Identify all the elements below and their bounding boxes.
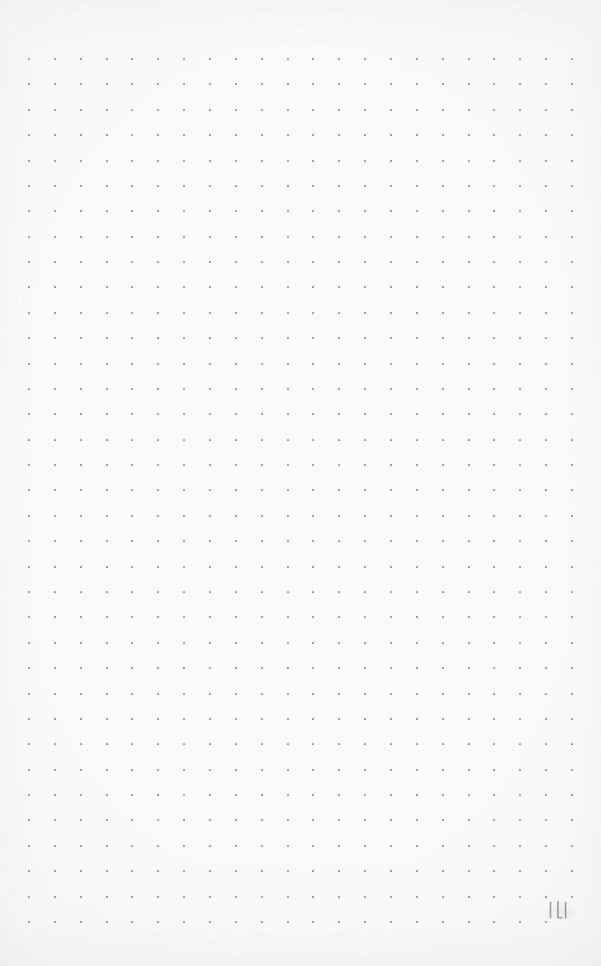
grid-dot bbox=[54, 83, 56, 85]
grid-dot bbox=[54, 464, 56, 466]
grid-dot bbox=[28, 337, 30, 339]
grid-dot bbox=[468, 464, 470, 466]
grid-dot bbox=[364, 794, 366, 796]
grid-dot bbox=[519, 236, 521, 238]
grid-dot bbox=[106, 667, 108, 669]
grid-dot bbox=[235, 667, 237, 669]
grid-dot bbox=[183, 363, 185, 365]
grid-dot bbox=[261, 337, 263, 339]
grid-dot bbox=[390, 693, 392, 695]
grid-dot bbox=[183, 261, 185, 263]
grid-dot bbox=[54, 210, 56, 212]
grid-dot bbox=[364, 845, 366, 847]
grid-dot bbox=[183, 693, 185, 695]
grid-dot bbox=[28, 743, 30, 745]
grid-dot bbox=[157, 337, 159, 339]
grid-dot bbox=[261, 363, 263, 365]
grid-dot bbox=[442, 743, 444, 745]
grid-dot bbox=[312, 109, 314, 111]
grid-dot bbox=[545, 210, 547, 212]
grid-dot bbox=[493, 870, 495, 872]
grid-dot bbox=[183, 337, 185, 339]
grid-dot bbox=[390, 109, 392, 111]
grid-dot bbox=[493, 642, 495, 644]
grid-dot bbox=[493, 261, 495, 263]
grid-dot bbox=[416, 769, 418, 771]
grid-dot bbox=[28, 718, 30, 720]
grid-dot bbox=[468, 109, 470, 111]
grid-dot bbox=[235, 616, 237, 618]
grid-dot bbox=[235, 286, 237, 288]
grid-dot bbox=[416, 616, 418, 618]
grid-dot bbox=[364, 185, 366, 187]
grid-dot bbox=[287, 363, 289, 365]
grid-dot bbox=[312, 896, 314, 898]
grid-dot bbox=[364, 870, 366, 872]
grid-dot bbox=[571, 794, 573, 796]
grid-dot bbox=[442, 566, 444, 568]
grid-dot bbox=[571, 236, 573, 238]
grid-dot bbox=[390, 337, 392, 339]
grid-dot bbox=[390, 160, 392, 162]
grid-dot bbox=[157, 769, 159, 771]
grid-dot bbox=[131, 337, 133, 339]
grid-dot bbox=[106, 160, 108, 162]
grid-dot bbox=[261, 566, 263, 568]
grid-dot bbox=[54, 58, 56, 60]
grid-dot bbox=[157, 642, 159, 644]
grid-dot bbox=[545, 769, 547, 771]
grid-dot bbox=[183, 185, 185, 187]
grid-dot bbox=[468, 363, 470, 365]
grid-dot bbox=[312, 363, 314, 365]
grid-dot bbox=[106, 58, 108, 60]
grid-dot bbox=[493, 896, 495, 898]
grid-dot bbox=[519, 312, 521, 314]
grid-dot bbox=[545, 642, 547, 644]
grid-dot bbox=[54, 185, 56, 187]
grid-dot bbox=[28, 921, 30, 923]
grid-dot bbox=[519, 134, 521, 136]
grid-dot bbox=[183, 540, 185, 542]
grid-dot bbox=[28, 591, 30, 593]
grid-dot bbox=[54, 591, 56, 593]
grid-dot bbox=[183, 160, 185, 162]
grid-dot bbox=[442, 515, 444, 517]
grid-dot bbox=[235, 134, 237, 136]
grid-dot bbox=[442, 591, 444, 593]
grid-dot bbox=[235, 489, 237, 491]
grid-dot bbox=[468, 515, 470, 517]
grid-dot bbox=[157, 819, 159, 821]
grid-dot bbox=[287, 109, 289, 111]
grid-dot bbox=[209, 616, 211, 618]
grid-dot bbox=[519, 667, 521, 669]
grid-dot bbox=[183, 743, 185, 745]
grid-dot bbox=[209, 642, 211, 644]
grid-dot bbox=[209, 819, 211, 821]
grid-dot bbox=[54, 743, 56, 745]
grid-dot bbox=[442, 134, 444, 136]
grid-dot bbox=[209, 261, 211, 263]
grid-dot bbox=[571, 693, 573, 695]
grid-dot bbox=[80, 439, 82, 441]
grid-dot bbox=[157, 540, 159, 542]
grid-dot bbox=[80, 337, 82, 339]
grid-dot bbox=[209, 693, 211, 695]
grid-dot bbox=[493, 845, 495, 847]
grid-dot bbox=[287, 160, 289, 162]
grid-dot bbox=[80, 363, 82, 365]
grid-dot bbox=[209, 743, 211, 745]
grid-dot bbox=[28, 210, 30, 212]
grid-dot bbox=[312, 312, 314, 314]
grid-dot bbox=[209, 413, 211, 415]
grid-dot bbox=[209, 896, 211, 898]
grid-dot bbox=[28, 261, 30, 263]
grid-dot bbox=[442, 769, 444, 771]
grid-dot bbox=[338, 286, 340, 288]
grid-dot bbox=[338, 464, 340, 466]
grid-dot bbox=[545, 591, 547, 593]
grid-dot bbox=[312, 870, 314, 872]
grid-dot bbox=[338, 261, 340, 263]
grid-dot bbox=[545, 845, 547, 847]
grid-dot bbox=[28, 286, 30, 288]
grid-dot bbox=[416, 58, 418, 60]
